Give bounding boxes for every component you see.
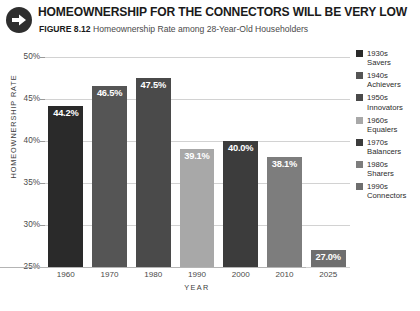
legend-decade-label: 1940s <box>367 71 420 80</box>
legend-swatch-icon <box>356 72 363 79</box>
x-axis-line <box>0 267 306 268</box>
legend-item[interactable]: 1960sEqualers <box>356 116 420 135</box>
legend-item[interactable]: 1950sInnovators <box>356 93 420 112</box>
x-axis-title: YEAR <box>44 283 350 292</box>
legend-generation-label: Savers <box>367 58 420 67</box>
legend-decade-label: 1990s <box>367 182 420 191</box>
legend-swatch-icon <box>356 94 363 101</box>
legend-item[interactable]: 1970sBalancers <box>356 138 420 157</box>
legend-generation-label: Connectors <box>367 191 420 200</box>
legend-swatch-icon <box>356 161 363 168</box>
x-axis-tick-label: 1960 <box>44 270 88 279</box>
bar-value-label: 38.1% <box>267 159 302 169</box>
bar-value-label: 47.5% <box>136 80 171 90</box>
x-axis-tick-label: 1980 <box>131 270 175 279</box>
y-axis-tick-label: 30% <box>6 220 40 229</box>
x-axis-tick-labels: 1960197019801990200020102025 <box>44 270 350 282</box>
legend-generation-label: Innovators <box>367 103 420 112</box>
y-axis-tick-labels: 25%30%35%40%45%50% <box>0 57 40 267</box>
legend-generation-label: Balancers <box>367 147 420 156</box>
legend-generation-label: Equalers <box>367 125 420 134</box>
bar-value-label: 27.0% <box>311 252 346 262</box>
legend-decade-label: 1980s <box>367 160 420 169</box>
bar-value-label: 40.0% <box>223 143 258 153</box>
bar[interactable]: 38.1% <box>267 157 302 267</box>
x-axis-tick-label: 2000 <box>219 270 263 279</box>
legend-generation-label: Achievers <box>367 80 420 89</box>
bar-value-label: 46.5% <box>92 88 127 98</box>
legend-swatch-icon <box>356 183 363 190</box>
legend-swatch-icon <box>356 139 363 146</box>
x-axis-tick-label: 1990 <box>175 270 219 279</box>
bar[interactable]: 47.5% <box>136 78 171 267</box>
arrow-right-circle-icon <box>6 7 32 33</box>
figure-caption: FIGURE 8.12 Homeownership Rate among 28-… <box>39 24 419 35</box>
legend-item[interactable]: 1990sConnectors <box>356 182 420 201</box>
bar[interactable]: 40.0% <box>223 141 258 267</box>
legend-decade-label: 1930s <box>367 49 420 58</box>
bar[interactable]: 46.5% <box>92 86 127 267</box>
figure-number: FIGURE 8.12 <box>39 24 91 34</box>
y-axis-title: HOMEOWNERSHIP RATE <box>9 62 18 192</box>
bottom-caption <box>4 302 304 311</box>
legend-decade-label: 1950s <box>367 93 420 102</box>
figure-subtitle: Homeownership Rate among 28-Year-Old Hou… <box>93 24 308 34</box>
legend-item[interactable]: 1940sAchievers <box>356 71 420 90</box>
legend-item[interactable]: 1930sSavers <box>356 49 420 68</box>
x-axis-tick-label: 1970 <box>88 270 132 279</box>
chart-header: HOMEOWNERSHIP FOR THE CONNECTORS WILL BE… <box>0 0 420 44</box>
bar-value-label: 39.1% <box>180 151 215 161</box>
bar-value-label: 44.2% <box>48 108 83 118</box>
bar[interactable]: 39.1% <box>180 149 215 267</box>
legend-item[interactable]: 1980sSharers <box>356 160 420 179</box>
y-axis-tick-label: 50% <box>6 52 40 61</box>
legend-decade-label: 1960s <box>367 116 420 125</box>
x-axis-tick-label: 2010 <box>263 270 307 279</box>
plot-area: 44.2%46.5%47.5%39.1%40.0%38.1%27.0% <box>44 57 350 267</box>
legend-swatch-icon <box>356 117 363 124</box>
bar[interactable]: 27.0% <box>311 250 346 267</box>
bar-series: 44.2%46.5%47.5%39.1%40.0%38.1%27.0% <box>44 57 350 267</box>
legend-decade-label: 1970s <box>367 138 420 147</box>
x-axis-tick-label: 2025 <box>306 270 350 279</box>
legend-swatch-icon <box>356 50 363 57</box>
bar[interactable]: 44.2% <box>48 106 83 267</box>
legend: 1930sSavers1940sAchievers1950sInnovators… <box>356 49 420 204</box>
legend-generation-label: Sharers <box>367 169 420 178</box>
page-title: HOMEOWNERSHIP FOR THE CONNECTORS WILL BE… <box>38 5 416 19</box>
